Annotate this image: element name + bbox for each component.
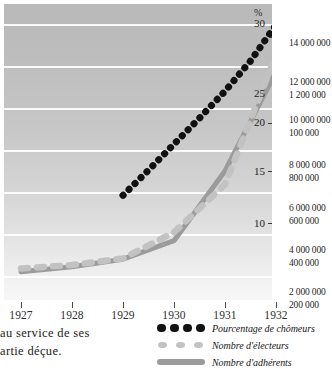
x-axis-label-1929: 1929 [111, 309, 134, 321]
right-value-label: 400 000 [289, 258, 319, 268]
legend-label-electeurs: Nombre d'électeurs [212, 340, 289, 351]
right-value-label: 100 000 [289, 128, 319, 138]
right-value-label: 800 000 [289, 173, 319, 183]
percent-tick-label-15: 15 [254, 165, 265, 177]
x-tick-1930 [174, 302, 175, 308]
right-value-label: 10 000 000 [289, 115, 330, 125]
chart-legend: Pourcentage de chômeurs Nombre d'électeu… [157, 321, 332, 369]
legend-label-chomeurs: Pourcentage de chômeurs [212, 323, 315, 334]
x-axis-label-1931: 1931 [213, 309, 236, 321]
chart-plot-area: % 30 25 20 15 10 [4, 4, 272, 300]
legend-label-adherents: Nombre d'adhérents [212, 357, 292, 368]
percent-tick-mark [269, 37, 272, 38]
x-axis-label-1928: 1928 [60, 309, 83, 321]
series-line-nombre-d-lecteurs [21, 55, 272, 268]
x-tick-1931 [225, 302, 226, 308]
page-text-line-2: artie déçue. [0, 344, 62, 359]
percent-tick-label-20: 20 [254, 116, 265, 128]
x-axis-label-1927: 1927 [9, 309, 32, 321]
legend-item-chomeurs: Pourcentage de chômeurs [157, 321, 315, 335]
percent-tick-mark [268, 223, 272, 224]
right-value-label: 12 000 000 [289, 77, 330, 87]
right-axis-value-labels: 14 000 000 12 000 000 1 200 000 10 000 0… [289, 0, 332, 300]
legend-marker-dotted-black-icon [157, 321, 205, 335]
percent-tick-label-25: 25 [254, 87, 265, 99]
right-value-label: 600 000 [289, 216, 319, 226]
series-line-pourcentage-de-ch-meurs [123, 25, 272, 196]
x-tick-1932 [276, 302, 277, 308]
x-axis-label-1932: 1932 [264, 309, 287, 321]
legend-item-electeurs: Nombre d'électeurs [157, 338, 289, 352]
page-body-text-fragment: au service de ses artie déçue. [0, 326, 152, 369]
legend-marker-dotted-light-icon [157, 338, 205, 352]
right-value-label: 2 000 000 [289, 287, 326, 297]
percent-tick-label-30: 30 [254, 17, 265, 29]
right-value-label: 14 000 000 [289, 38, 330, 48]
legend-marker-solid-gray-icon [157, 355, 205, 369]
x-tick-1928 [72, 302, 73, 308]
x-tick-1929 [123, 302, 124, 308]
percent-tick-mark [268, 123, 272, 124]
right-value-label: 1 200 000 [289, 90, 326, 100]
legend-item-adherents: Nombre d'adhérents [157, 355, 292, 369]
chart-series-layer [4, 4, 272, 300]
right-value-label: 8 000 000 [289, 160, 326, 170]
percent-tick-mark [268, 171, 272, 172]
x-tick-1927 [21, 302, 22, 308]
x-axis-label-1930: 1930 [162, 309, 185, 321]
percent-tick-label-10: 10 [254, 217, 265, 229]
right-value-label: 6 000 000 [289, 203, 326, 213]
page-text-line-1: au service de ses [0, 326, 90, 341]
right-value-label: 4 000 000 [289, 245, 326, 255]
